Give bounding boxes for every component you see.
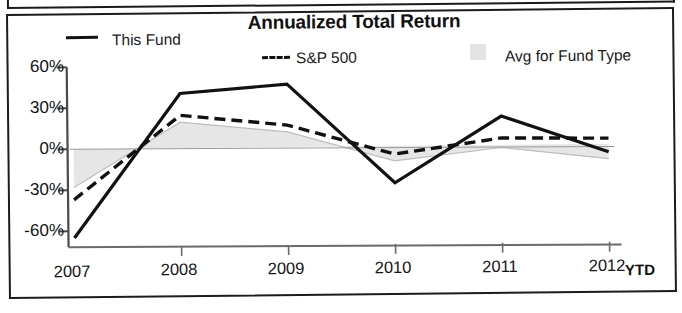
legend-item-sp500: S&P 500 bbox=[296, 49, 357, 68]
y-axis-line bbox=[67, 67, 69, 247]
y-tick-label-neg30: -30% bbox=[2, 180, 64, 201]
x-tick-label-2008: 2008 bbox=[144, 260, 214, 280]
x-tick-label-2010: 2010 bbox=[358, 258, 428, 278]
legend-item-avg-fund-type: Avg for Fund Type bbox=[505, 46, 631, 65]
y-tick-label-60: 60% bbox=[2, 57, 64, 78]
x-tick-label-2009: 2009 bbox=[251, 259, 321, 279]
y-tick-label-30: 30% bbox=[2, 98, 64, 119]
x-axis-line bbox=[69, 242, 622, 251]
y-tick-label-neg60: -60% bbox=[2, 221, 64, 242]
dashed-line-marker bbox=[262, 56, 290, 59]
legend-item-this-fund: This Fund bbox=[112, 31, 181, 50]
x-axis-ticks bbox=[182, 242, 610, 256]
gray-swatch-marker bbox=[470, 44, 486, 60]
this-fund-line bbox=[73, 81, 610, 238]
chart-screenshot: Annualized Total Return This Fund S&P 50… bbox=[0, 0, 682, 313]
x-tick-label-2011: 2011 bbox=[465, 257, 535, 277]
y-tick-label-0: 0% bbox=[2, 139, 64, 160]
x-tick-label-2007: 2007 bbox=[37, 261, 107, 281]
chart-title: Annualized Total Return bbox=[224, 10, 484, 34]
x-axis-ytd-label: YTD bbox=[625, 261, 655, 278]
solid-line-marker bbox=[66, 36, 98, 39]
